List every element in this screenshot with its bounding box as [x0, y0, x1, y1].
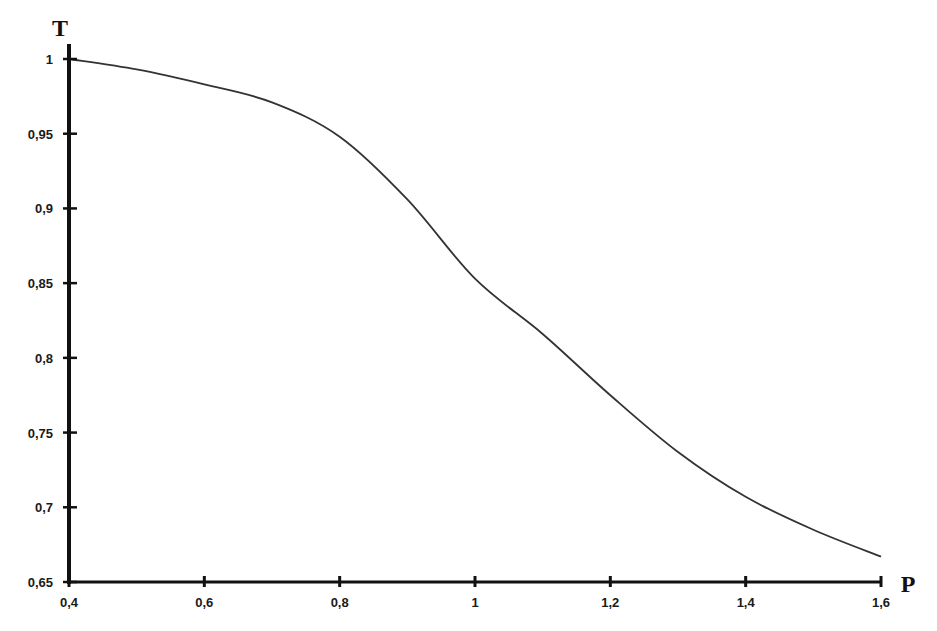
y-tick-label: 0,75: [28, 426, 53, 441]
y-tick-label: 1: [46, 52, 53, 67]
y-axis: 10,950,90,850,80,750,70,65: [28, 44, 77, 590]
x-axis: 0,40,60,811,21,41,6: [60, 576, 890, 610]
x-tick-label: 1,6: [872, 595, 890, 610]
series-line-t-vs-p: [69, 59, 881, 557]
x-axis-title: P: [901, 571, 916, 597]
x-tick-label: 1,4: [737, 595, 756, 610]
line-chart: 10,950,90,850,80,750,70,65 0,40,60,811,2…: [0, 0, 937, 631]
x-tick-label: 0,6: [195, 595, 213, 610]
x-tick-label: 1,2: [601, 595, 619, 610]
y-tick-label: 0,85: [28, 276, 53, 291]
y-tick-label: 0,8: [35, 351, 53, 366]
x-tick-label: 0,4: [60, 595, 79, 610]
x-tick-label: 0,8: [331, 595, 349, 610]
y-axis-title: T: [52, 15, 68, 41]
plot-area: [69, 59, 881, 557]
y-tick-label: 0,9: [35, 201, 53, 216]
y-tick-label: 0,7: [35, 500, 53, 515]
y-tick-label: 0,95: [28, 127, 53, 142]
y-tick-label: 0,65: [28, 575, 53, 590]
x-tick-label: 1: [471, 595, 478, 610]
